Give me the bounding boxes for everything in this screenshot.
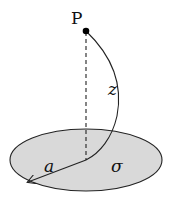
point-p-dot — [83, 28, 90, 35]
point-label: P — [71, 8, 82, 28]
radius-label: a — [44, 156, 54, 176]
distance-label: z — [107, 79, 118, 99]
sigma-label: σ — [111, 156, 123, 176]
disk-field-diagram: P z a σ — [0, 0, 171, 206]
